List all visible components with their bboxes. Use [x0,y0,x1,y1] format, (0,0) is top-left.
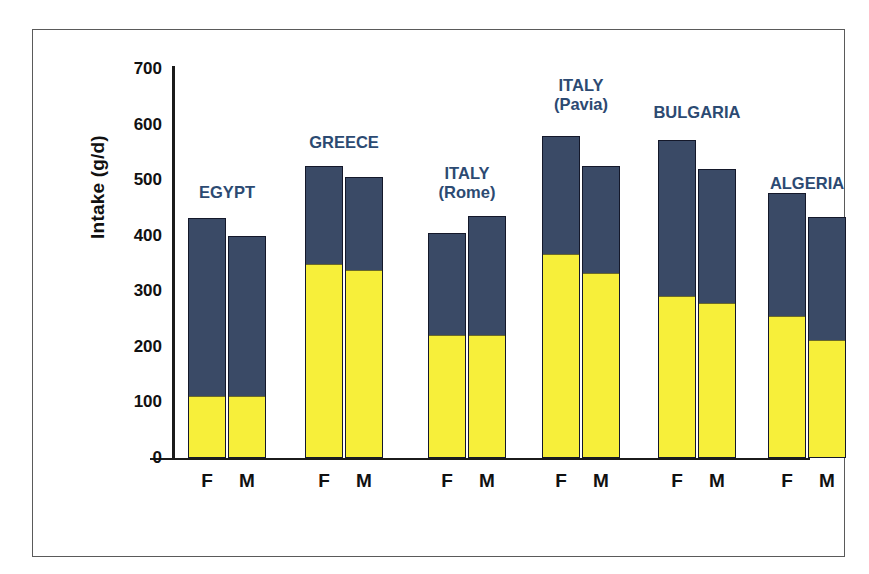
bar-lower-segment [469,335,505,457]
bar-egypt-f [188,218,226,458]
group-label-line: GREECE [269,133,419,152]
x-axis-tick-label: M [698,470,736,492]
group-label-bulgaria: BULGARIA [622,103,772,122]
group-label-egypt: EGYPT [152,183,302,202]
bar-italy-rome-f [428,233,466,458]
y-axis-tick-label: 0 [116,449,162,466]
bar-upper-segment [543,137,579,253]
bar-lower-segment [346,270,382,457]
x-axis-tick-label: M [468,470,506,492]
group-label-line: (Rome) [392,183,542,202]
y-axis-tick-label: 300 [116,282,162,299]
group-label-line: BULGARIA [622,103,772,122]
bar-lower-segment [583,273,619,457]
x-axis-tick-label: F [428,470,466,492]
y-axis-tick-label: 600 [116,116,162,133]
bar-bulgaria-f [658,140,696,458]
bar-lower-segment [809,340,845,457]
x-axis-tick-label: M [582,470,620,492]
x-axis-tick-label: F [305,470,343,492]
bar-upper-segment [229,237,265,396]
y-axis-title: Intake (g/d) [87,87,109,287]
bar-italy-rome-m [468,216,506,458]
group-label-line: ITALY [392,164,542,183]
bar-upper-segment [583,167,619,273]
x-axis-tick-label: F [658,470,696,492]
x-axis-tick-label: M [808,470,846,492]
y-axis-line [172,66,175,459]
x-axis-tick-label: F [542,470,580,492]
bar-italy-pavia-f [542,136,580,458]
bar-upper-segment [659,141,695,296]
group-label-italy-rome: ITALY(Rome) [392,164,542,203]
y-axis-zero-tick [161,458,173,461]
group-label-line: EGYPT [152,183,302,202]
group-label-greece: GREECE [269,133,419,152]
bar-lower-segment [429,335,465,457]
bar-lower-segment [306,264,342,457]
bar-egypt-m [228,236,266,458]
bar-algeria-f [768,193,806,458]
bar-lower-segment [189,396,225,457]
x-axis-tick-label: M [228,470,266,492]
bar-upper-segment [809,218,845,340]
x-axis-tick-label: F [188,470,226,492]
bar-italy-pavia-m [582,166,620,458]
group-label-line: ALGERIA [732,174,869,193]
group-label-line: ITALY [506,76,656,95]
bar-bulgaria-m [698,169,736,458]
bar-upper-segment [346,178,382,269]
bar-upper-segment [306,167,342,263]
bar-upper-segment [469,217,505,335]
bar-upper-segment [769,194,805,316]
bar-greece-m [345,177,383,458]
chart-plot-area: Intake (g/d) 7006005004003002001000 EGYP… [0,0,869,574]
bar-greece-f [305,166,343,458]
group-label-algeria: ALGERIA [732,174,869,193]
bar-upper-segment [429,234,465,335]
bar-lower-segment [659,296,695,457]
x-axis-tick-label: F [768,470,806,492]
y-axis-tick-label: 700 [116,60,162,77]
bar-lower-segment [229,396,265,457]
y-axis-tick-label: 200 [116,338,162,355]
bar-lower-segment [699,303,735,457]
y-axis-tick-label: 400 [116,227,162,244]
x-axis-tick-label: M [345,470,383,492]
bar-algeria-m [808,217,846,458]
bar-lower-segment [769,316,805,457]
bar-lower-segment [543,254,579,457]
bar-upper-segment [189,219,225,396]
bar-upper-segment [699,170,735,303]
y-axis-tick-label: 100 [116,393,162,410]
